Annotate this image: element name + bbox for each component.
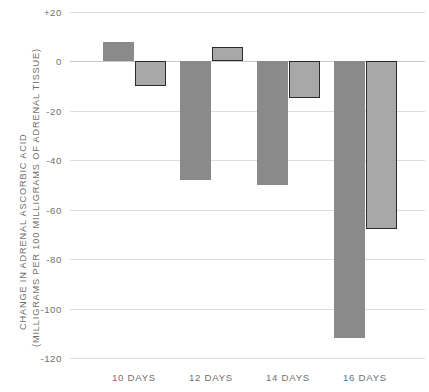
y-tick-label--120: -120 (22, 353, 62, 364)
bar-series-b-14-days (289, 61, 320, 98)
x-tick-label-14-days: 14 DAYS (266, 372, 310, 383)
bar-series-a-10-days (103, 42, 134, 62)
gridline-20 (70, 12, 425, 13)
bar-series-b-10-days (135, 61, 166, 86)
bar-series-a-16-days (334, 61, 365, 338)
y-tick-label--100: -100 (22, 303, 62, 314)
bar-series-a-14-days (257, 61, 288, 185)
y-tick-label-20: +20 (22, 7, 62, 18)
gridline--100 (70, 309, 425, 310)
gridline--80 (70, 259, 425, 260)
chart-figure: CHANGE IN ADRENAL ASCORBIC ACID (MILLIGR… (0, 0, 429, 392)
y-tick-label--60: -60 (22, 204, 62, 215)
y-tick-label-0: 0 (22, 56, 62, 67)
bar-series-a-12-days (180, 61, 211, 180)
x-tick-label-10-days: 10 DAYS (112, 372, 156, 383)
y-axis-tick-labels: +200-20-40-60-80-100-120 (0, 0, 70, 392)
bar-series-b-16-days (366, 61, 397, 229)
x-tick-label-16-days: 16 DAYS (343, 372, 387, 383)
y-tick-label--20: -20 (22, 105, 62, 116)
plot-area (70, 0, 425, 392)
gridline--120 (70, 358, 425, 359)
x-tick-label-12-days: 12 DAYS (189, 372, 233, 383)
y-tick-label--40: -40 (22, 155, 62, 166)
bar-series-b-12-days (212, 47, 243, 62)
y-tick-label--80: -80 (22, 254, 62, 265)
